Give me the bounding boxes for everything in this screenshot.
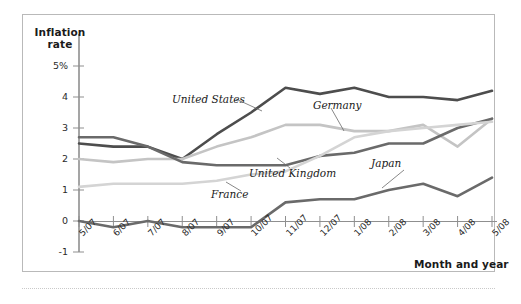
y-tick-label: 5% — [44, 60, 68, 71]
inflation-rate-chart-figure: Inflation rate Month and year 5%43210-1 … — [0, 0, 521, 304]
series-label-germany: Germany — [313, 99, 362, 111]
series-label-united-states: United States — [172, 93, 245, 105]
y-axis-title: Inflation rate — [31, 26, 89, 50]
series-line-united-states — [79, 88, 492, 159]
y-tick-label: -1 — [44, 246, 68, 257]
x-axis-title: Month and year — [414, 258, 509, 270]
y-tick-label: 0 — [44, 215, 68, 226]
series-paths — [79, 88, 492, 228]
y-axis-title-line1: Inflation — [35, 26, 86, 38]
y-tick-label: 4 — [44, 91, 68, 102]
y-tick-label: 2 — [44, 153, 68, 164]
leader-line-japan — [382, 170, 404, 188]
y-axis-title-line2: rate — [48, 38, 73, 50]
series-label-united-kingdom: United Kingdom — [249, 167, 336, 179]
series-label-france: France — [211, 188, 248, 200]
y-tick-label: 3 — [44, 122, 68, 133]
y-tick-label: 1 — [44, 184, 68, 195]
series-label-japan: Japan — [371, 157, 401, 169]
